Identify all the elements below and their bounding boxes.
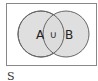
universe-label: S [7, 70, 15, 81]
set-b-label: B [65, 28, 73, 42]
venn-diagram: A B ∪ S [0, 0, 98, 81]
union-symbol: ∪ [50, 29, 57, 40]
set-a-label: A [36, 28, 45, 42]
